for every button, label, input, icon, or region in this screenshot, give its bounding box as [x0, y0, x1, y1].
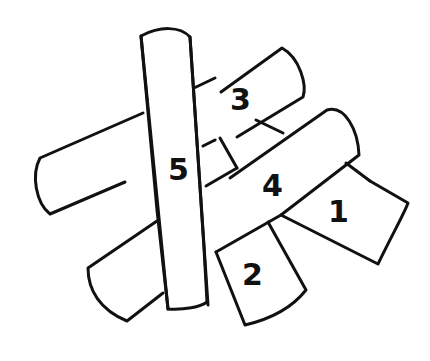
- piece-3-left-extension: [35, 113, 143, 214]
- piece-5: 5: [141, 29, 215, 310]
- piece-1-label: 1: [328, 194, 349, 229]
- piece-5-label: 5: [168, 152, 189, 187]
- piece-1: 1: [281, 181, 408, 264]
- diagram-canvas: 1 2 3 4: [0, 0, 430, 361]
- piece-4: 4: [206, 109, 370, 252]
- piece-3: 3: [220, 48, 304, 168]
- piece-2-label: 2: [242, 257, 263, 292]
- piece-4-left-extension: [88, 221, 163, 321]
- piece-3-label: 3: [230, 82, 251, 117]
- piece-4-label: 4: [262, 168, 283, 203]
- sticks-diagram: 1 2 3 4: [0, 0, 430, 361]
- piece-2: 2: [216, 222, 306, 325]
